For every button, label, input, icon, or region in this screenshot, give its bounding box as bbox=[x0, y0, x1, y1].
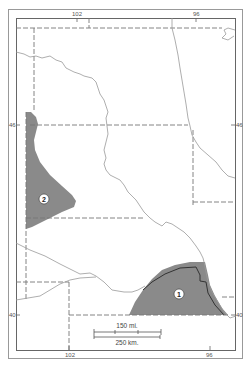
region-number-1: 1 bbox=[177, 291, 181, 298]
lat-label-right-46: 46 bbox=[236, 122, 243, 128]
lat-label-left-40: 40 bbox=[9, 312, 16, 318]
map: 102 96 102 96 46 40 46 40 2 1 150 mi. 25… bbox=[0, 0, 251, 366]
lon-label-top-96: 96 bbox=[193, 11, 200, 17]
shaded-region-1 bbox=[129, 262, 228, 315]
scale-miles-label: 150 mi. bbox=[116, 322, 138, 329]
region-number-2: 2 bbox=[42, 196, 46, 203]
scale-km-label: 250 km. bbox=[115, 339, 138, 346]
lon-label-top-102: 102 bbox=[72, 11, 83, 17]
region-label-1: 1 bbox=[174, 289, 184, 299]
region-label-2: 2 bbox=[39, 194, 49, 204]
lon-label-bottom-96: 96 bbox=[206, 352, 213, 358]
shaded-region-2 bbox=[26, 112, 76, 229]
lat-label-right-40: 40 bbox=[236, 312, 243, 318]
lat-label-left-46: 46 bbox=[9, 122, 16, 128]
lon-label-bottom-102: 102 bbox=[65, 352, 76, 358]
scale-bar bbox=[94, 329, 161, 339]
